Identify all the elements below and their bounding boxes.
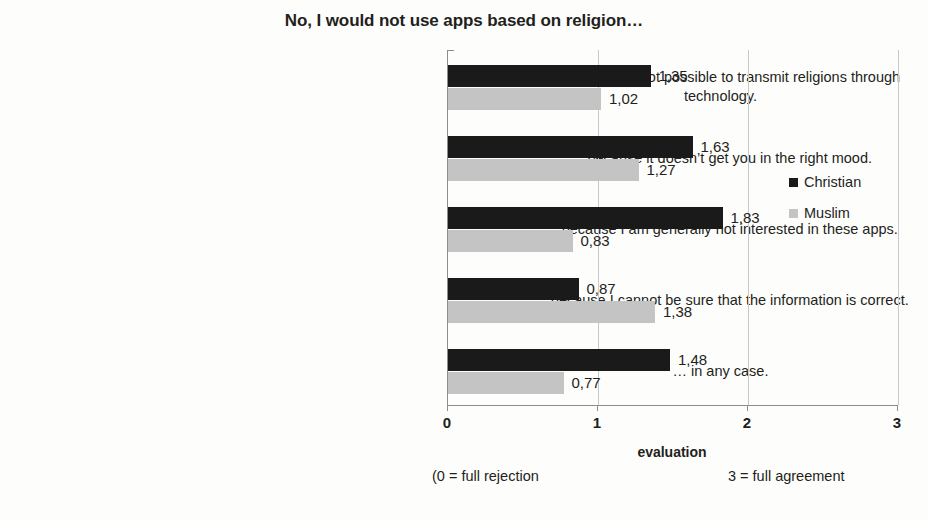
- bar-muslim: [448, 88, 601, 110]
- x-tick-label: 3: [893, 414, 901, 431]
- bar-group: 0,871,38: [448, 278, 898, 323]
- bar-christian: [448, 136, 693, 158]
- x-tick-label: 1: [593, 414, 601, 431]
- chart-legend: ChristianMuslim: [789, 174, 861, 236]
- bar-christian: [448, 349, 670, 371]
- bar-value-label: 1,35: [659, 65, 688, 87]
- x-axis-title: evaluation: [447, 444, 897, 460]
- bar-muslim: [448, 301, 655, 323]
- legend-label: Christian: [804, 174, 861, 190]
- bar-christian: [448, 278, 579, 300]
- bar-value-label: 1,27: [647, 159, 676, 181]
- gridline-3: [898, 50, 899, 405]
- legend-swatch-icon: [789, 209, 798, 218]
- bar-group: 1,480,77: [448, 349, 898, 394]
- bar-value-label: 0,77: [572, 372, 601, 394]
- legend-item-muslim[interactable]: Muslim: [789, 205, 861, 221]
- x-tick-label: 0: [443, 414, 451, 431]
- chart-title: No, I would not use apps based on religi…: [0, 11, 928, 31]
- bar-christian: [448, 65, 651, 87]
- chart-container: No, I would not use apps based on religi…: [0, 0, 928, 520]
- x-tick-mark: [897, 405, 898, 411]
- bar-value-label: 0,83: [581, 230, 610, 252]
- bar-value-label: 1,48: [678, 349, 707, 371]
- x-tick-mark: [597, 405, 598, 411]
- x-tick-label: 2: [743, 414, 751, 431]
- bar-value-label: 1,02: [609, 88, 638, 110]
- bar-value-label: 0,87: [587, 278, 616, 300]
- bar-group: 1,351,02: [448, 65, 898, 110]
- x-tick-mark: [447, 405, 448, 411]
- note-full-rejection: (0 = full rejection: [432, 468, 539, 484]
- x-axis-line: [447, 405, 897, 406]
- bar-christian: [448, 207, 723, 229]
- x-tick-mark: [747, 405, 748, 411]
- note-full-agreement: 3 = full agreement: [728, 468, 844, 484]
- bar-value-label: 1,38: [663, 301, 692, 323]
- bar-muslim: [448, 230, 573, 252]
- legend-swatch-icon: [789, 178, 798, 187]
- bar-value-label: 1,83: [731, 207, 760, 229]
- bar-muslim: [448, 159, 639, 181]
- legend-item-christian[interactable]: Christian: [789, 174, 861, 190]
- bar-value-label: 1,63: [701, 136, 730, 158]
- bar-muslim: [448, 372, 564, 394]
- legend-label: Muslim: [804, 205, 850, 221]
